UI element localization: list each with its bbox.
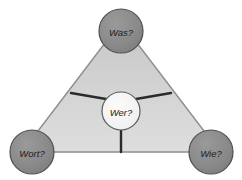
node-wort[interactable]: Wort? (10, 130, 54, 174)
node-was[interactable]: Was? (99, 9, 143, 53)
diagram-canvas: Was? Wort? Wie? Wer? (0, 0, 242, 180)
node-wie[interactable]: Wie? (189, 130, 233, 174)
node-wort-label: Wort? (19, 148, 45, 159)
node-wer[interactable]: Wer? (102, 92, 140, 130)
node-was-label: Was? (109, 27, 134, 38)
node-wer-label: Wer? (110, 107, 133, 118)
node-wie-label: Wie? (200, 148, 222, 159)
w-questions-triangle-diagram: Was? Wort? Wie? Wer? (0, 0, 242, 180)
